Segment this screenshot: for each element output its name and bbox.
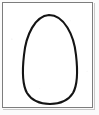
egg-outline-path [23, 15, 77, 104]
egg-figure [5, 5, 96, 111]
screenshot-canvas [0, 0, 99, 115]
drawing-frame [2, 2, 93, 108]
